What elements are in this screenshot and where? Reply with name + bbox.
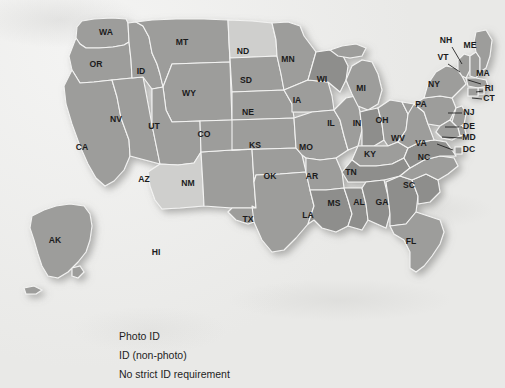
label-MT: MT bbox=[176, 37, 189, 47]
label-PA: PA bbox=[415, 99, 426, 109]
legend-swatch-photo-id bbox=[86, 331, 108, 343]
label-DC: DC bbox=[463, 144, 475, 154]
map-legend: Photo ID ID (non-photo) No strict ID req… bbox=[86, 330, 230, 381]
label-VT: VT bbox=[438, 52, 450, 62]
label-WY: WY bbox=[182, 88, 196, 98]
label-MD: MD bbox=[462, 132, 475, 142]
label-UT: UT bbox=[148, 121, 160, 131]
label-IA: IA bbox=[293, 95, 302, 105]
state-AK[interactable] bbox=[24, 204, 92, 294]
label-OR: OR bbox=[90, 59, 104, 69]
state-ND[interactable] bbox=[228, 20, 277, 58]
state-KS[interactable] bbox=[232, 118, 296, 150]
label-HI: HI bbox=[152, 247, 161, 257]
us-map-svg: WA OR CA NV ID MT WY UT AZ NM CO ND SD N… bbox=[0, 0, 505, 388]
label-NM: NM bbox=[181, 178, 194, 188]
label-FL: FL bbox=[406, 236, 417, 246]
label-LA: LA bbox=[302, 210, 313, 220]
label-AL: AL bbox=[353, 197, 364, 207]
legend-item-photo-id[interactable]: Photo ID bbox=[86, 330, 230, 343]
label-ME: ME bbox=[464, 40, 477, 50]
label-DE: DE bbox=[463, 121, 475, 131]
label-OK: OK bbox=[264, 171, 278, 181]
label-NC: NC bbox=[418, 152, 430, 162]
state-WY[interactable] bbox=[163, 62, 232, 122]
legend-item-id-nonphoto[interactable]: ID (non-photo) bbox=[86, 349, 230, 362]
label-ID: ID bbox=[137, 66, 146, 76]
label-AR: AR bbox=[306, 171, 319, 181]
label-IL: IL bbox=[327, 118, 335, 128]
label-OH: OH bbox=[376, 115, 389, 125]
label-SC: SC bbox=[403, 180, 415, 190]
label-ND: ND bbox=[237, 46, 249, 56]
legend-label-photo-id: Photo ID bbox=[119, 330, 160, 343]
legend-swatch-no-strict bbox=[86, 369, 108, 381]
label-GA: GA bbox=[376, 197, 389, 207]
legend-swatch-id-nonphoto bbox=[86, 350, 108, 362]
label-NY: NY bbox=[428, 79, 440, 89]
label-KS: KS bbox=[249, 140, 261, 150]
leader-CT bbox=[472, 98, 482, 99]
label-AK: AK bbox=[49, 235, 62, 245]
label-NE: NE bbox=[242, 107, 254, 117]
label-MI: MI bbox=[356, 83, 366, 93]
label-CA: CA bbox=[76, 142, 88, 152]
label-SD: SD bbox=[240, 75, 252, 85]
label-WV: WV bbox=[391, 133, 405, 143]
label-MO: MO bbox=[299, 142, 313, 152]
label-WA: WA bbox=[99, 27, 113, 37]
state-SD[interactable] bbox=[230, 56, 284, 92]
state-LA[interactable] bbox=[308, 188, 352, 232]
label-NH: NH bbox=[440, 35, 452, 45]
label-KY: KY bbox=[364, 149, 376, 159]
label-NJ: NJ bbox=[464, 107, 475, 117]
label-TN: TN bbox=[345, 167, 356, 177]
label-MA: MA bbox=[476, 68, 489, 78]
legend-label-id-nonphoto: ID (non-photo) bbox=[119, 349, 187, 362]
label-MN: MN bbox=[281, 54, 294, 64]
label-VA: VA bbox=[415, 138, 426, 148]
label-NV: NV bbox=[110, 114, 122, 124]
label-WI: WI bbox=[317, 74, 328, 84]
legend-label-no-strict: No strict ID requirement bbox=[119, 368, 230, 381]
label-AZ: AZ bbox=[138, 174, 149, 184]
label-RI: RI bbox=[485, 83, 494, 93]
label-MS: MS bbox=[328, 198, 341, 208]
label-TX: TX bbox=[243, 214, 254, 224]
leader-NH bbox=[452, 47, 462, 64]
label-CT: CT bbox=[483, 93, 495, 103]
label-IN: IN bbox=[353, 118, 362, 128]
state-NM[interactable] bbox=[201, 149, 256, 208]
legend-item-no-strict[interactable]: No strict ID requirement bbox=[86, 368, 230, 381]
state-DC[interactable] bbox=[455, 147, 462, 154]
us-map: WA OR CA NV ID MT WY UT AZ NM CO ND SD N… bbox=[0, 0, 505, 388]
label-CO: CO bbox=[198, 129, 211, 139]
